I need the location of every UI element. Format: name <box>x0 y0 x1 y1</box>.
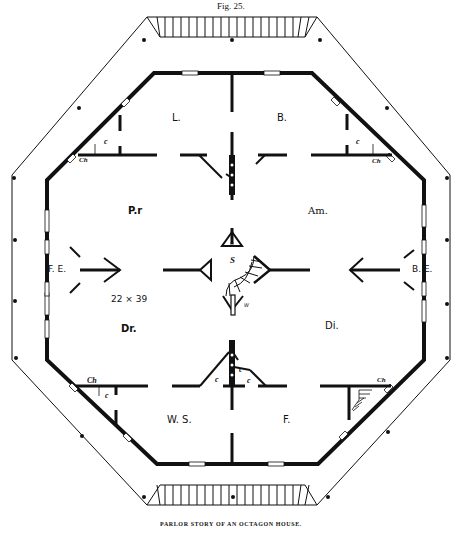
chimney-marker-lower-right: Ch <box>377 376 386 384</box>
bottom-steps <box>147 485 317 505</box>
room-label-f: F. <box>283 414 290 425</box>
room-label-wash-sink: W. S. <box>167 414 192 425</box>
closet-marker-upper-left: c <box>104 137 108 146</box>
chimney-marker-upper-left: Ch <box>79 156 88 164</box>
octagon-floor-plan <box>0 0 462 536</box>
top-steps <box>147 17 317 37</box>
room-label-drawing: Dr. <box>121 323 137 334</box>
room-label-parlor: P.r <box>128 205 142 216</box>
closet-marker-upper-right: c <box>356 137 360 146</box>
room-label-dining: Di. <box>325 320 339 331</box>
service-stair <box>352 390 372 411</box>
room-label-back-entry: B. E. <box>412 264 432 274</box>
hall-marker: H <box>230 241 234 247</box>
figure-number: Fig. 25. <box>0 1 462 11</box>
room-label-bedroom: B. <box>277 112 287 123</box>
closet-marker-lower-center-mid: c <box>239 365 243 374</box>
closet-marker-lower-center-right: c <box>247 376 251 385</box>
closet-marker-lower-center-left: c <box>215 375 219 384</box>
closet-marker-lower-left: c <box>105 391 109 400</box>
left-niche <box>200 260 211 280</box>
window-marker: W <box>244 302 249 308</box>
chimney-stack-bottom <box>229 340 235 386</box>
room-label-library: L. <box>172 112 181 123</box>
chimney-marker-lower-left: Ch <box>87 376 97 385</box>
room-dimensions: 22 × 39 <box>111 294 147 304</box>
figure-caption: PARLOR STORY OF AN OCTAGON HOUSE. <box>0 521 462 527</box>
chimney-marker-upper-right: Ch <box>372 157 381 165</box>
room-label-amusement: Am. <box>308 205 328 216</box>
room-label-front-entry: F. E. <box>48 264 66 274</box>
stair-marker: S <box>230 255 235 265</box>
